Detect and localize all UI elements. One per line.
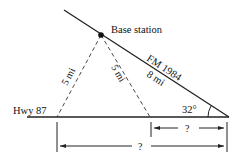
- triangle-diagram: Base station FM 1984 8 mi Hwy 87 5 mi 5 …: [0, 0, 242, 163]
- arrowhead-icon: [60, 144, 66, 148]
- arrowhead-icon: [218, 126, 224, 130]
- base-station-dot: [98, 32, 104, 38]
- angle-label: 32°: [182, 104, 197, 115]
- angle-arc: [208, 106, 211, 117]
- dashed-right-label: 5 mi: [109, 63, 128, 84]
- long-unknown-label: ?: [138, 141, 143, 152]
- dashed-left-label: 5 mi: [59, 66, 77, 87]
- hwy-87-label: Hwy 87: [13, 105, 47, 116]
- arrowhead-icon: [218, 144, 224, 148]
- short-unknown-label: ?: [185, 123, 190, 134]
- base-station-label: Base station: [111, 24, 163, 35]
- arrowhead-icon: [154, 126, 160, 130]
